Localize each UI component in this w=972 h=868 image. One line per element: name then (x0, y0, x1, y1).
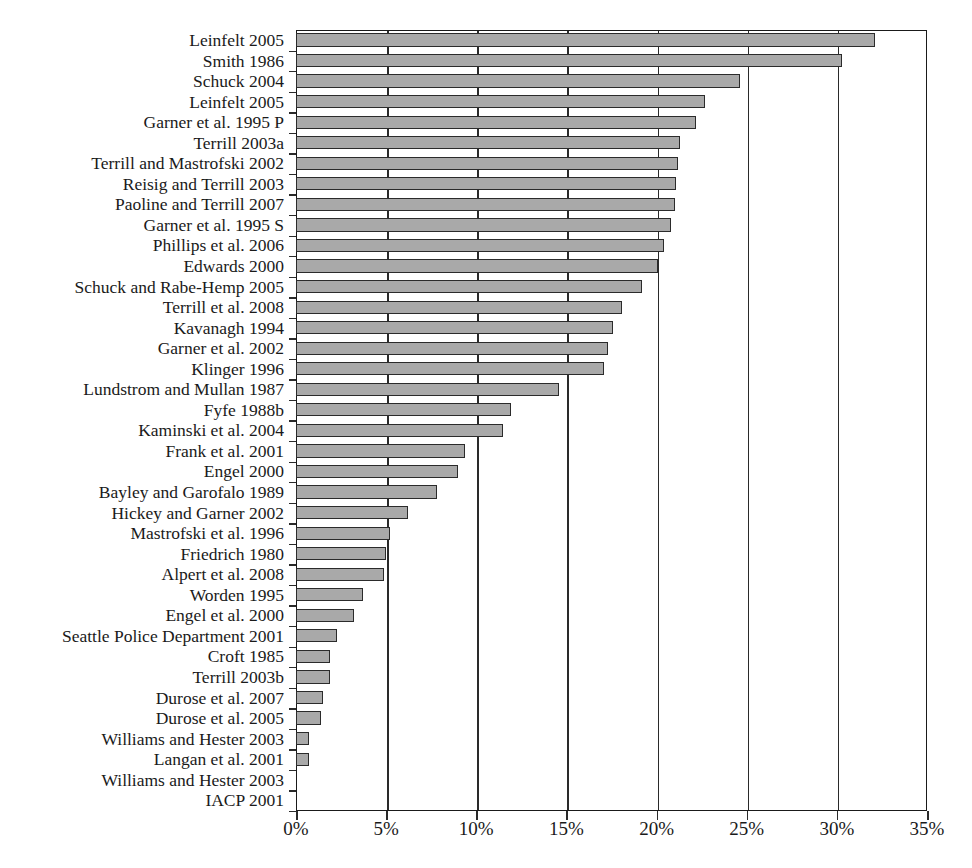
y-axis-tick (289, 215, 296, 216)
x-axis-tick-label: 35% (910, 818, 945, 840)
y-axis-tick (289, 51, 296, 52)
y-axis-label: Kaminski et al. 2004 (0, 420, 286, 441)
bar-row (296, 133, 927, 154)
y-axis-label: Klinger 1996 (0, 359, 286, 380)
bar-row (296, 379, 927, 400)
x-axis-tick-label: 25% (729, 818, 764, 840)
bar (296, 116, 696, 129)
y-axis-tick (289, 236, 296, 237)
y-axis-tick (289, 174, 296, 175)
y-axis-tick (289, 400, 296, 401)
y-axis-tick (289, 708, 296, 709)
y-axis-tick (289, 92, 296, 93)
y-axis-tick (289, 688, 296, 689)
y-axis-label: Terrill 2003b (0, 667, 286, 688)
bar (296, 54, 842, 67)
y-axis-label: Terrill 2003a (0, 133, 286, 154)
y-axis-tick (289, 441, 296, 442)
bar-row (296, 482, 927, 503)
bar-row (296, 112, 927, 133)
bar (296, 239, 664, 252)
x-axis-tick-label: 10% (459, 818, 494, 840)
y-axis-label: Garner et al. 1995 P (0, 112, 286, 133)
y-axis-tick (289, 194, 296, 195)
bar-row (296, 688, 927, 709)
bar-row (296, 338, 927, 359)
bar (296, 753, 309, 766)
bar (296, 711, 321, 724)
y-axis-tick (289, 318, 296, 319)
y-axis-label: Worden 1995 (0, 585, 286, 606)
y-axis-label: Schuck 2004 (0, 71, 286, 92)
y-axis-label: Smith 1986 (0, 51, 286, 72)
bar (296, 33, 875, 46)
bar-row (296, 441, 927, 462)
bar (296, 650, 330, 663)
y-axis-label: Hickey and Garner 2002 (0, 503, 286, 524)
bar-row (296, 30, 927, 51)
y-axis-label: Durose et al. 2007 (0, 688, 286, 709)
y-axis-tick (289, 277, 296, 278)
bar-row (296, 359, 927, 380)
y-axis-tick (289, 626, 296, 627)
y-axis-tick (289, 462, 296, 463)
x-axis-tick-label: 20% (639, 818, 674, 840)
bar-row (296, 564, 927, 585)
y-axis-label: Phillips et al. 2006 (0, 235, 286, 256)
bar-row (296, 646, 927, 667)
bar-row (296, 770, 927, 791)
y-axis-label: Frank et al. 2001 (0, 441, 286, 462)
bar-chart: Leinfelt 2005Smith 1986Schuck 2004Leinfe… (0, 0, 972, 868)
y-axis-tick (289, 564, 296, 565)
bar (296, 157, 678, 170)
y-axis-tick (289, 811, 296, 812)
bar-row (296, 256, 927, 277)
y-axis-tick (289, 770, 296, 771)
bar (296, 177, 676, 190)
y-axis-tick (289, 585, 296, 586)
y-axis-tick (289, 338, 296, 339)
y-axis-tick (289, 112, 296, 113)
y-axis-tick (289, 749, 296, 750)
bar (296, 301, 622, 314)
y-axis-label: Alpert et al. 2008 (0, 564, 286, 585)
bar-row (296, 626, 927, 647)
bar (296, 547, 386, 560)
bar-row (296, 277, 927, 298)
y-axis-tick (289, 667, 296, 668)
bar-series (296, 30, 927, 811)
y-axis-tick (289, 544, 296, 545)
x-axis-tick-label: 15% (549, 818, 584, 840)
y-axis-tick (289, 482, 296, 483)
bar (296, 362, 604, 375)
x-axis-tick-label: 5% (373, 818, 398, 840)
bar (296, 342, 608, 355)
y-axis-label: Fyfe 1988b (0, 400, 286, 421)
bar (296, 403, 511, 416)
bar-row (296, 71, 927, 92)
bar (296, 424, 503, 437)
bar (296, 74, 740, 87)
bar (296, 568, 384, 581)
bar-row (296, 605, 927, 626)
bar-row (296, 400, 927, 421)
bar-row (296, 318, 927, 339)
bar (296, 506, 408, 519)
bar (296, 609, 354, 622)
y-axis-category-labels: Leinfelt 2005Smith 1986Schuck 2004Leinfe… (0, 30, 286, 811)
bar (296, 444, 465, 457)
bar-row (296, 503, 927, 524)
y-axis-label: Terrill and Mastrofski 2002 (0, 153, 286, 174)
bar-row (296, 790, 927, 811)
bar (296, 670, 330, 683)
y-axis-label: Garner et al. 1995 S (0, 215, 286, 236)
bar-row (296, 544, 927, 565)
y-axis-tick (289, 153, 296, 154)
y-axis-label: Paoline and Terrill 2007 (0, 194, 286, 215)
y-axis-tick (289, 256, 296, 257)
bar-row (296, 749, 927, 770)
y-axis-label: IACP 2001 (0, 790, 286, 811)
x-axis-tick-labels: 0%5%10%15%20%25%30%35% (296, 818, 927, 848)
bar (296, 691, 323, 704)
y-axis-label: Williams and Hester 2003 (0, 729, 286, 750)
